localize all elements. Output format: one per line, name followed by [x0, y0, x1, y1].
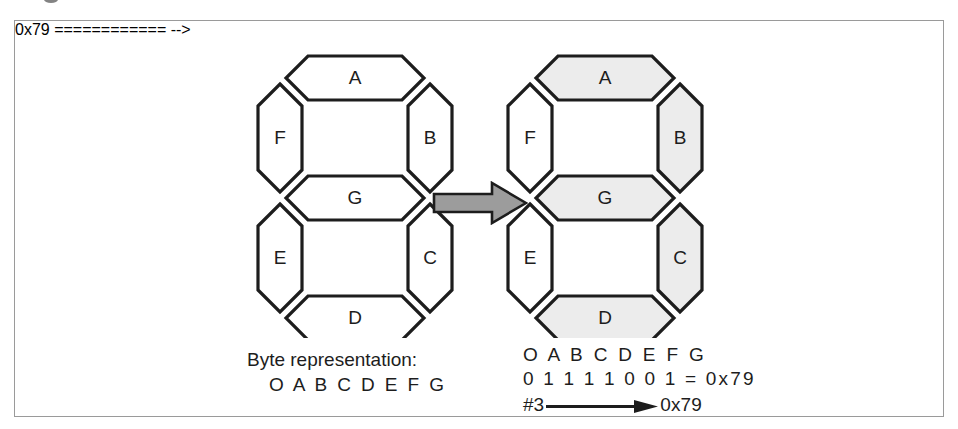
segment-g-label: G: [598, 187, 613, 208]
segment-b-label: B: [424, 127, 437, 148]
segment-a-label: A: [599, 67, 612, 88]
digit-three-seven-segment-display: A F B G E C D: [505, 33, 705, 338]
bit-name-row-right: O A B C D E F G: [523, 343, 756, 367]
digit-index-label: #3: [523, 394, 544, 416]
segment-a-label: A: [349, 67, 362, 88]
segment-c-label: C: [423, 247, 437, 268]
result-hex-label: 0x79: [660, 394, 702, 416]
bit-value-row: 0 1 1 1 1 0 0 1 = 0x79: [523, 367, 756, 391]
transform-arrow-icon: [432, 181, 528, 225]
figure-frame: A F B G E C D A F B G: [14, 20, 944, 417]
mapping-arrow-icon: [546, 400, 658, 413]
cropped-caption-remnant: [14, 0, 314, 14]
segment-g-label: G: [348, 187, 363, 208]
bit-table-block: O A B C D E F G 0 1 1 1 1 0 0 1 = 0x79: [523, 343, 756, 391]
byte-representation-label: Byte representation:: [247, 347, 446, 372]
segment-f-label: F: [274, 127, 286, 148]
caption-ink-blob: [44, 0, 58, 3]
segment-f-label: F: [524, 127, 536, 148]
segment-e-label: E: [274, 247, 287, 268]
segment-b-label: B: [674, 127, 687, 148]
bit-name-row-left: O A B C D E F G: [247, 372, 446, 397]
segment-e-label: E: [524, 247, 537, 268]
segment-d-label: D: [598, 307, 612, 328]
byte-representation-caption-block: Byte representation: O A B C D E F G: [247, 347, 446, 397]
blank-seven-segment-display: A F B G E C D: [255, 33, 455, 338]
segment-d-label: D: [348, 307, 362, 328]
segment-c-label: C: [673, 247, 687, 268]
digit-to-hex-mapping-row: #3 0x79: [523, 392, 743, 418]
